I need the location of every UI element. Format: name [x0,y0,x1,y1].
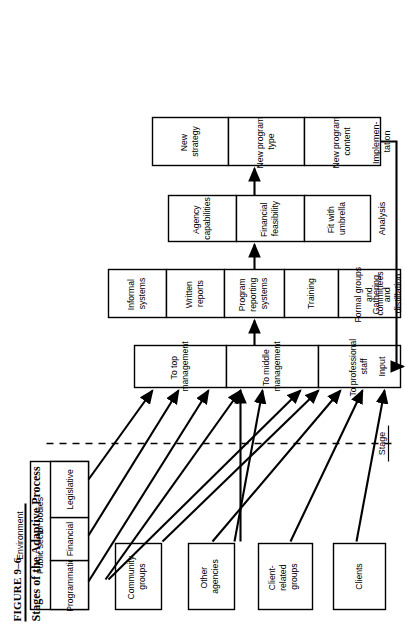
stage-label-analysis: Analysis [376,201,386,235]
figure-canvas: FIGURE 9–6 Stages of the Adaptive Proces… [0,0,405,639]
label-training: Training [305,277,315,308]
stage-header-label: Stage [376,431,386,455]
arrow-other-agencies-to-middle-management [234,390,262,541]
arrow-other-agencies-to-professional-staff [212,390,340,541]
arrow-feedback-loop [380,141,403,366]
label-programmatic: Programmatic [64,557,74,611]
arrow-clients-to-professional-staff [356,390,384,541]
label-public-sector-bodies: Public sector bodies [34,497,44,574]
label-financial: Financial [64,521,74,555]
arrow-client-related-groups-to-professional-staff [290,390,362,541]
label-clients: Clients [353,563,363,589]
label-program-reporting-systems: Program reporting systems [236,275,268,311]
environment-label: Environment [14,510,24,559]
label-client-related-groups: Client- related groups [266,562,298,591]
stage-label-input: Input [376,355,386,376]
label-legislative: Legislative [64,468,74,509]
arrow-legislative-to-top-management [88,390,152,479]
adaptive-process-flowchart: Environment Public sector bodies Program… [0,0,405,639]
